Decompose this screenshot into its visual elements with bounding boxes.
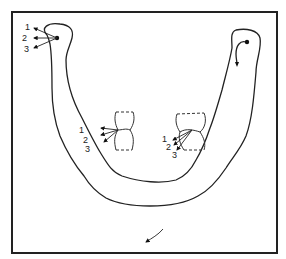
right-condyle-point bbox=[245, 40, 249, 44]
left-tooth-label-3: 3 bbox=[85, 144, 90, 154]
left-condyle-label-2: 2 bbox=[22, 33, 27, 43]
left-teeth bbox=[115, 112, 134, 150]
mandible-diagram: 1 2 3 1 2 3 1 2 3 bbox=[0, 0, 286, 259]
left-condyle-label-1: 1 bbox=[25, 22, 30, 32]
movement-arrow bbox=[146, 229, 163, 242]
right-condyle-path bbox=[236, 42, 246, 64]
left-condyle-arrow-1 bbox=[34, 28, 57, 38]
right-tooth-label-2: 2 bbox=[166, 142, 171, 152]
right-condyle-arrowhead bbox=[235, 62, 239, 67]
left-tooth-arrow-1 bbox=[101, 128, 118, 130]
left-condyle-label-3: 3 bbox=[24, 44, 29, 54]
mandible-outline bbox=[44, 24, 260, 206]
left-condyle-arrow-3 bbox=[34, 38, 57, 48]
left-tooth-label-1: 1 bbox=[79, 125, 84, 135]
right-tooth-label-3: 3 bbox=[172, 150, 177, 160]
